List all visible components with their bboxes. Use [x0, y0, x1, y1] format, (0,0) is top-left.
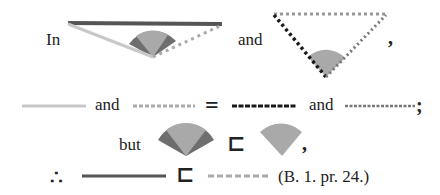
triangle-two: [274, 14, 386, 77]
semicolon: ;: [416, 95, 423, 115]
side-top-dark: [68, 23, 222, 24]
combined-angle: [158, 123, 214, 156]
label-but: but: [119, 136, 141, 153]
citation: (B. 1. pr. 24.): [278, 168, 369, 185]
euclid-figures: [0, 0, 440, 195]
less-than-symbol-2: ⊏: [176, 164, 194, 186]
equals-symbol: =: [205, 93, 219, 117]
triangle-one: [68, 23, 222, 57]
comma-2: ,: [302, 133, 307, 153]
less-than-symbol-1: ⊏: [227, 133, 245, 155]
single-angle: [260, 123, 302, 156]
therefore-symbol: ∴: [50, 167, 63, 187]
label-and-2: and: [95, 96, 120, 113]
label-and-3: and: [309, 96, 334, 113]
side-left-black-dotted: [274, 15, 326, 77]
